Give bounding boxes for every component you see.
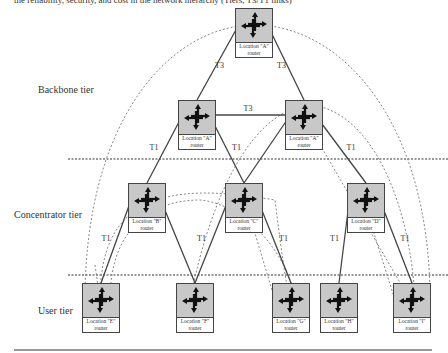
link-bb-left-c: [212, 120, 244, 183]
router-d: Location "D"router: [347, 183, 385, 233]
router-type: router: [177, 325, 213, 332]
router-label: Location "C"router: [225, 217, 263, 233]
router-label: Location "D"router: [347, 217, 385, 233]
router-location: Location "G": [273, 318, 309, 325]
router-i: Location "I"router: [393, 283, 431, 333]
router-arrows-icon: [290, 103, 318, 131]
link-label: T3: [277, 61, 286, 70]
router-body: [285, 100, 323, 135]
tier-label-backbone: Backbone tier: [38, 84, 94, 95]
links-layer: T3T3T3T1T1T1T1T1T1T1T1: [0, 0, 448, 353]
router-label: Location "A"router: [235, 42, 273, 58]
router-type: router: [273, 325, 309, 332]
link-label: T3: [215, 61, 224, 70]
router-arrows-icon: [133, 186, 161, 214]
router-location: Location "H": [321, 318, 357, 325]
tier-label-concentrator: Concentrator tier: [14, 209, 82, 220]
link-label: T1: [347, 143, 356, 152]
router-body: [320, 283, 358, 318]
router-location: Location "B": [129, 218, 165, 225]
router-arrows-icon: [181, 286, 209, 314]
router-body: [393, 283, 431, 318]
router-body: [225, 183, 263, 218]
router-location: Location "F": [177, 318, 213, 325]
router-type: router: [321, 325, 357, 332]
link-top-bb-right: [269, 28, 304, 100]
router-e: Location "E"router: [82, 283, 120, 333]
router-bb-left: Location "A"router: [178, 100, 216, 150]
router-location: Location "A": [236, 43, 272, 50]
router-arrows-icon: [352, 186, 380, 214]
router-body: [347, 183, 385, 218]
link-bb-right-d: [319, 120, 366, 183]
router-type: router: [236, 50, 272, 57]
router-label: Location "I"router: [393, 317, 431, 333]
router-label: Location "F"router: [176, 317, 214, 333]
link-label: T1: [330, 234, 339, 243]
link-bb-right-c: [244, 120, 287, 183]
link-label: T1: [102, 234, 111, 243]
router-label: Location "B"router: [128, 217, 166, 233]
figure-caption: the reliability, security, and cost in t…: [14, 0, 292, 5]
link-label: T1: [197, 234, 206, 243]
link-c-f: [195, 203, 227, 283]
router-arrows-icon: [240, 11, 268, 39]
network-hierarchy-diagram: T3T3T3T1T1T1T1T1T1T1T1 the reliability, …: [0, 0, 448, 353]
router-label: Location "A"router: [178, 134, 216, 150]
router-arrows-icon: [230, 186, 258, 214]
link-b-e: [101, 203, 130, 283]
router-top: Location "A"router: [235, 8, 273, 58]
link-label: T1: [279, 234, 288, 243]
router-location: Location "A": [286, 135, 322, 142]
router-type: router: [129, 225, 165, 232]
link-label: T1: [150, 143, 159, 152]
router-type: router: [394, 325, 430, 332]
router-location: Location "A": [179, 135, 215, 142]
router-location: Location "C": [226, 218, 262, 225]
link-label: T1: [232, 143, 241, 152]
link-c-g: [259, 203, 291, 283]
router-arrows-icon: [183, 103, 211, 131]
router-b: Location "B"router: [128, 183, 166, 233]
router-arrows-icon: [325, 286, 353, 314]
router-location: Location "I": [394, 318, 430, 325]
link-label: T3: [244, 104, 253, 113]
router-f: Location "F"router: [176, 283, 214, 333]
router-label: Location "A"router: [285, 134, 323, 150]
router-g: Location "G"router: [272, 283, 310, 333]
router-body: [128, 183, 166, 218]
link-label: T1: [401, 234, 410, 243]
router-body: [82, 283, 120, 318]
router-body: [178, 100, 216, 135]
router-label: Location "G"router: [272, 317, 310, 333]
router-body: [235, 8, 273, 43]
router-arrows-icon: [277, 286, 305, 314]
router-arrows-icon: [87, 286, 115, 314]
router-type: router: [179, 142, 215, 149]
router-type: router: [286, 142, 322, 149]
router-type: router: [348, 225, 384, 232]
router-body: [176, 283, 214, 318]
router-label: Location "H"router: [320, 317, 358, 333]
router-bb-right: Location "A"router: [285, 100, 323, 150]
router-label: Location "E"router: [82, 317, 120, 333]
router-location: Location "E": [83, 318, 119, 325]
tier-label-user: User tier: [38, 305, 73, 316]
link-b-f: [162, 203, 195, 283]
router-type: router: [83, 325, 119, 332]
router-h: Location "H"router: [320, 283, 358, 333]
router-body: [272, 283, 310, 318]
link-bb-left-b: [147, 120, 180, 183]
router-type: router: [226, 225, 262, 232]
router-c: Location "C"router: [225, 183, 263, 233]
router-arrows-icon: [398, 286, 426, 314]
router-location: Location "D": [348, 218, 384, 225]
